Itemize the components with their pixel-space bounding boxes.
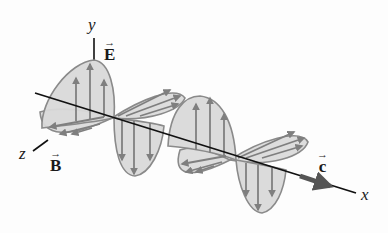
x-axis-label: x — [361, 186, 369, 203]
z-axis — [33, 140, 48, 151]
velocity-arrow — [300, 176, 330, 186]
wave-drawing — [0, 0, 388, 233]
z-axis-label: z — [19, 145, 26, 162]
velocity-label: → c — [317, 150, 328, 176]
y-axis-label: y — [88, 16, 96, 33]
electric-field-label: → E — [104, 38, 115, 64]
em-wave-diagram: y x z → E → B → c — [0, 0, 388, 233]
magnetic-field-label: → B — [50, 149, 61, 175]
electric-field-lobes — [42, 60, 286, 213]
